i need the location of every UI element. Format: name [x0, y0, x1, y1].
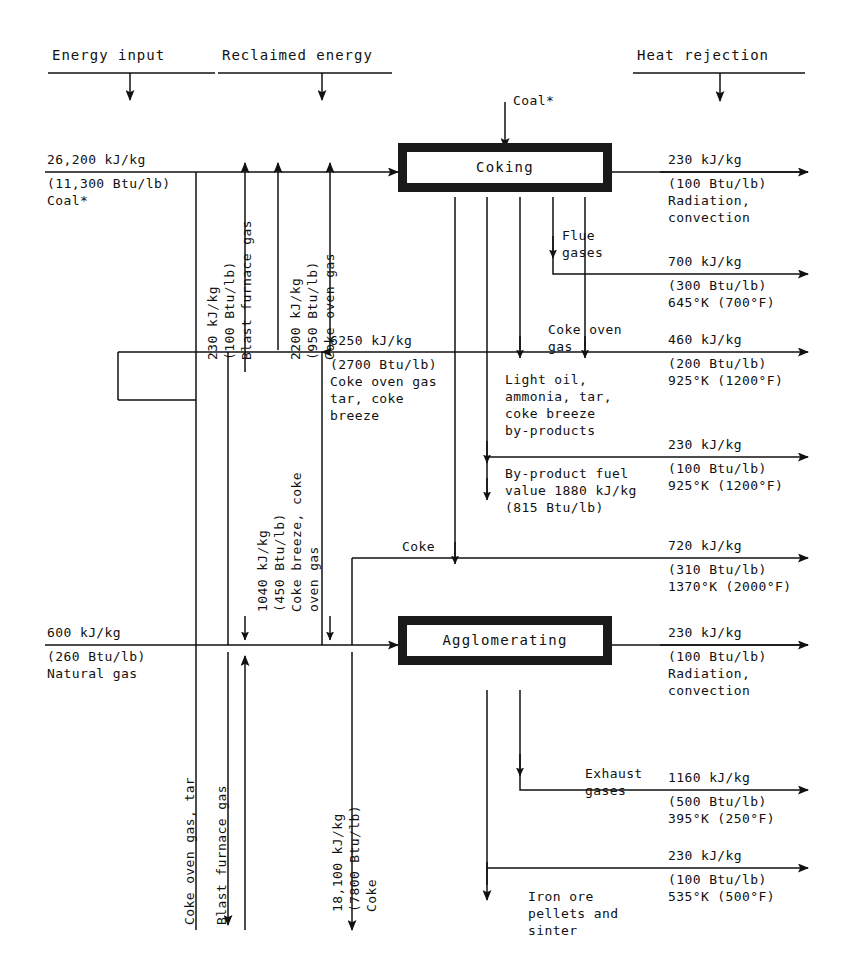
rejection-8-btu: (100 Btu/lb): [668, 872, 767, 888]
coal-input-value: 26,200 kJ/kg: [47, 152, 146, 168]
coke-oven-gas-label-2: gas ': [548, 339, 589, 355]
header-heat-rejection: Heat rejection: [637, 47, 769, 64]
rejection-5-btu: (310 Btu/lb): [668, 562, 767, 578]
byproduct-stream-value: 6250 kJ/kg: [330, 333, 412, 349]
diagram-canvas: Energy input Reclaimed energy Heat rejec…: [0, 0, 860, 971]
rejection-1-note-2: convection: [668, 210, 750, 226]
rejection-3-value: 460 kJ/kg: [668, 332, 742, 348]
coke-breeze-value: 1040 kJ/kg: [255, 530, 271, 612]
natural-gas-value: 600 kJ/kg: [47, 625, 121, 641]
coke-stream-value: 18,100 kJ/kg: [330, 813, 346, 912]
rejection-1-btu: (100 Btu/lb): [668, 176, 767, 192]
byproduct-fuel-label-2: value 1880 kJ/kg: [505, 483, 637, 499]
coke-oven-gas-label-1: Coke oven: [548, 322, 622, 338]
rejection-8-value: 230 kJ/kg: [668, 848, 742, 864]
rejection-6-note-1: Radiation,: [668, 666, 750, 682]
rejection-6-note-2: convection: [668, 683, 750, 699]
rejection-1-note-1: Radiation,: [668, 193, 750, 209]
iron-ore-label-2: pellets and: [528, 906, 619, 922]
light-oil-label-3: coke breeze: [505, 406, 596, 422]
rejection-8-temp: 535°K (500°F): [668, 889, 775, 905]
bfg-reclaim-btu: (100 Btu/lb): [222, 261, 238, 360]
rejection-2-value: 700 kJ/kg: [668, 254, 742, 270]
process-label-coking: Coking: [407, 152, 603, 183]
rejection-7-btu: (500 Btu/lb): [668, 794, 767, 810]
natural-gas-btu: (260 Btu/lb): [47, 649, 146, 665]
exhaust-gases-label-1: Exhaust: [585, 766, 643, 782]
coke-stream-name: Coke: [364, 879, 380, 912]
light-oil-label-4: by-products: [505, 423, 596, 439]
rejection-2-btu: (300 Btu/lb): [668, 278, 767, 294]
bfg-reclaim-value: 230 kJ/kg: [205, 286, 221, 360]
cog-reclaim-value: 2200 kJ/kg: [288, 278, 304, 360]
light-oil-label-2: ammonia, tar,: [505, 389, 612, 405]
process-box-coking[interactable]: Coking: [398, 143, 612, 192]
header-reclaimed-energy: Reclaimed energy: [222, 47, 373, 64]
byproduct-fuel-label-3: (815 Btu/lb): [505, 500, 604, 516]
rejection-3-btu: (200 Btu/lb): [668, 356, 767, 372]
blast-furnace-gas-up-label: Blast furnace gas: [214, 785, 230, 925]
rejection-7-value: 1160 kJ/kg: [668, 770, 750, 786]
rejection-6-btu: (100 Btu/lb): [668, 649, 767, 665]
rejection-7-temp: 395°K (250°F): [668, 811, 775, 827]
rejection-5-value: 720 kJ/kg: [668, 538, 742, 554]
rejection-5-temp: 1370°K (2000°F): [668, 579, 791, 595]
flue-gases-label-2: gases: [562, 245, 603, 261]
rejection-2-temp: 645°K (700°F): [668, 295, 775, 311]
byproduct-stream-btu: (2700 Btu/lb): [330, 357, 437, 373]
process-box-agglomerating[interactable]: Agglomerating: [398, 616, 612, 665]
coke-breeze-name-2: oven gas: [306, 546, 322, 612]
rejection-4-btu: (100 Btu/lb): [668, 461, 767, 477]
coal-input-name: Coal*: [47, 193, 88, 209]
byproduct-stream-name-1: Coke oven gas: [330, 374, 437, 390]
light-oil-label-1: Light oil,: [505, 372, 587, 388]
byproduct-stream-name-2: tar, coke: [330, 391, 404, 407]
coke-oven-gas-tar-down-label: Coke oven gas, tar: [182, 777, 198, 925]
iron-ore-label-1: Iron ore: [528, 889, 594, 905]
coke-label: Coke: [402, 539, 435, 555]
rejection-4-temp: 925°K (1200°F): [668, 478, 783, 494]
natural-gas-name: Natural gas: [47, 666, 138, 682]
flue-gases-label-1: Flue: [562, 228, 595, 244]
coal-feed-label: Coal*: [513, 93, 554, 109]
exhaust-gases-label-2: gases: [585, 783, 626, 799]
rejection-6-value: 230 kJ/kg: [668, 625, 742, 641]
rejection-4-value: 230 kJ/kg: [668, 437, 742, 453]
header-energy-input: Energy input: [52, 47, 165, 64]
coal-input-btu: (11,300 Btu/lb): [47, 176, 170, 192]
bfg-reclaim-name: Blast furnace gas: [239, 220, 255, 360]
byproduct-stream-name-3: breeze: [330, 408, 379, 424]
coke-breeze-name-1: Coke breeze, coke: [289, 472, 305, 612]
iron-ore-label-3: sinter: [528, 923, 577, 939]
process-label-agglomerating: Agglomerating: [407, 625, 603, 656]
coke-breeze-btu: (450 Btu/lb): [272, 513, 288, 612]
rejection-1-value: 230 kJ/kg: [668, 152, 742, 168]
rejection-3-temp: 925°K (1200°F): [668, 373, 783, 389]
coke-stream-btu: (7800 Btu/lb): [347, 805, 363, 912]
byproduct-fuel-label-1: By-product fuel: [505, 466, 628, 482]
cog-reclaim-btu: (950 Btu/lb): [305, 261, 321, 360]
